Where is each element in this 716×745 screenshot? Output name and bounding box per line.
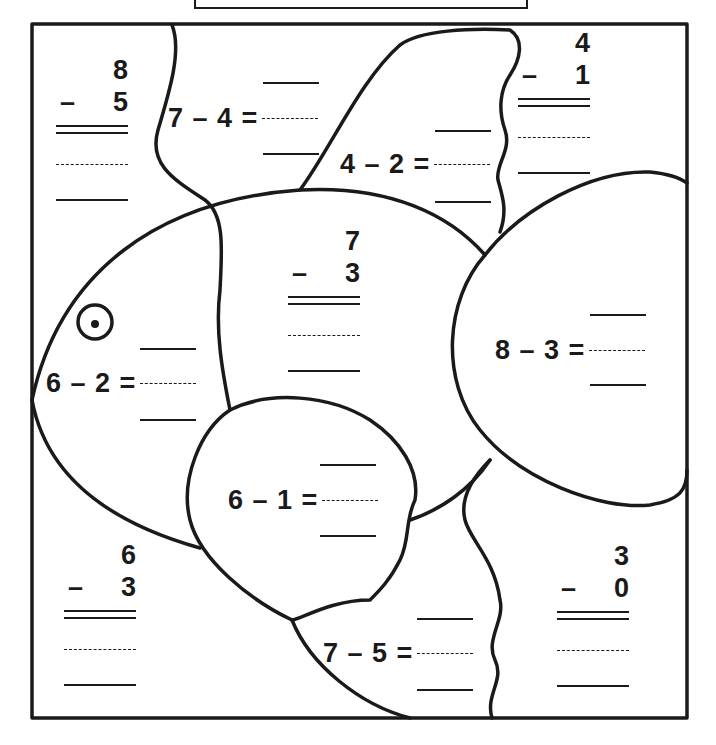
problem-4-minus-1: 4 –1 — [518, 30, 590, 174]
problem-7-minus-4: 7 – 4 = — [168, 105, 318, 132]
problem-7-minus-3: 7 –3 — [288, 228, 360, 372]
subtrahend: 3 — [345, 258, 360, 288]
answer-guide-baseline[interactable] — [64, 684, 136, 686]
minuend: 6 — [64, 542, 136, 574]
answer-guide-dashed[interactable] — [434, 164, 490, 165]
answer-guide-baseline[interactable] — [518, 172, 590, 174]
subtrahend-row: –0 — [557, 575, 629, 607]
tail-top — [485, 172, 687, 255]
fish-bottom-fin-edge — [292, 620, 410, 718]
divider-bottom-right — [464, 460, 501, 718]
answer-guide-dashed[interactable] — [518, 137, 590, 138]
subtrahend-row: –1 — [518, 62, 590, 94]
minus-sign: – — [60, 89, 75, 116]
answer-bar — [557, 611, 629, 620]
problem-4-minus-2: 4 – 2 = — [340, 151, 490, 178]
minus-sign: – — [561, 575, 576, 602]
answer-guide-baseline[interactable] — [56, 199, 128, 201]
answer-guide-bottom — [435, 201, 491, 203]
equation-text: 4 – 2 = — [340, 151, 430, 178]
subtrahend: 1 — [575, 60, 590, 90]
answer-bar — [288, 296, 360, 305]
minus-sign: – — [68, 574, 83, 601]
minus-sign: – — [522, 62, 537, 89]
tail-bottom — [452, 255, 687, 506]
answer-guide-bottom — [590, 384, 646, 386]
answer-guide-dashed[interactable] — [557, 650, 629, 651]
equation-text: 7 – 4 = — [168, 105, 258, 132]
minus-sign: – — [292, 260, 307, 287]
minuend: 8 — [56, 57, 128, 89]
problem-3-minus-0: 3 –0 — [557, 543, 629, 687]
subtrahend: 3 — [121, 572, 136, 602]
problem-8-minus-5: 8 –5 — [56, 57, 128, 201]
equation-text: 6 – 1 = — [228, 487, 318, 514]
answer-guide-dashed[interactable] — [140, 383, 196, 384]
answer-guide-bottom — [417, 689, 473, 691]
fish-body-bottom-right — [410, 460, 490, 520]
answer-guide-baseline[interactable] — [288, 370, 360, 372]
answer-guide-top — [320, 464, 376, 466]
subtrahend-row: –3 — [64, 574, 136, 606]
answer-guide-bottom — [320, 535, 376, 537]
answer-guide-dashed[interactable] — [64, 649, 136, 650]
answer-guide-top — [590, 314, 646, 316]
answer-guide-top — [417, 618, 473, 620]
problem-7-minus-5: 7 – 5 = — [323, 640, 473, 667]
subtrahend-row: –5 — [56, 89, 128, 121]
answer-guide-dashed[interactable] — [262, 118, 318, 119]
problem-6-minus-3: 6 –3 — [64, 542, 136, 686]
minuend: 4 — [518, 30, 590, 62]
answer-bar — [64, 610, 136, 619]
answer-bar — [518, 98, 590, 107]
answer-guide-top — [435, 130, 491, 132]
problem-8-minus-3: 8 – 3 = — [495, 337, 645, 364]
answer-guide-top — [263, 82, 319, 84]
answer-guide-dashed[interactable] — [322, 500, 378, 501]
answer-guide-dashed[interactable] — [288, 335, 360, 336]
equation-text: 6 – 2 = — [46, 370, 136, 397]
divider-top-left — [156, 25, 230, 410]
answer-guide-dashed[interactable] — [56, 164, 128, 165]
problem-6-minus-2: 6 – 2 = — [46, 370, 196, 397]
equation-text: 8 – 3 = — [495, 337, 585, 364]
answer-guide-top — [140, 348, 196, 350]
subtrahend: 5 — [113, 87, 128, 117]
answer-guide-bottom — [263, 153, 319, 155]
problem-6-minus-1: 6 – 1 = — [228, 487, 378, 514]
subtrahend-row: –3 — [288, 260, 360, 292]
minuend: 7 — [288, 228, 360, 260]
fish-body-bottom-left — [32, 400, 200, 548]
equation-text: 7 – 5 = — [323, 640, 413, 667]
minuend: 3 — [557, 543, 629, 575]
answer-guide-dashed[interactable] — [417, 653, 473, 654]
answer-guide-baseline[interactable] — [557, 685, 629, 687]
answer-guide-dashed[interactable] — [589, 350, 645, 351]
answer-guide-bottom — [140, 419, 196, 421]
subtrahend: 0 — [614, 573, 629, 603]
answer-bar — [56, 125, 128, 134]
